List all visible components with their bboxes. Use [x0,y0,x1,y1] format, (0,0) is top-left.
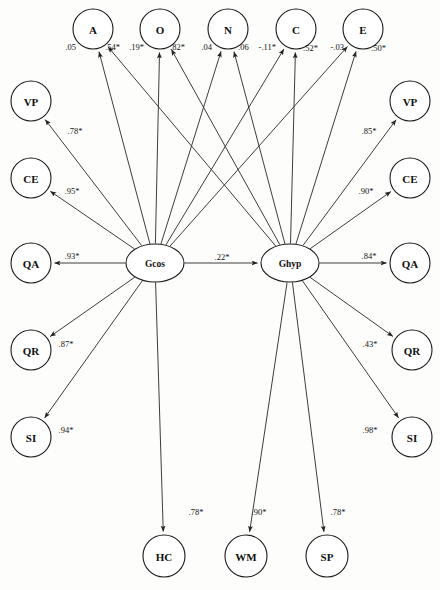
path-arrow-gcos-LQR [50,277,135,336]
coefficient-label-gcos-C: -.11* [259,42,276,52]
node-gcos[interactable]: Gcos [126,244,184,282]
coefficient-label-gcos-N: .04 [201,42,212,52]
node-l-vp[interactable]: VP [11,81,51,121]
coefficient-label-ghyp-C: .52* [303,43,318,53]
coefficient-label-ghyp-RQA: .84* [362,251,377,261]
node-shape-r-vp [390,81,430,121]
path-arrow-ghyp-C [291,52,296,243]
node-shape-hc [143,535,185,577]
path-arrow-gcos-A [99,52,150,244]
path-arrow-ghyp-A [108,47,276,246]
coefficient-label-ghyp-O: .82* [170,42,185,52]
coefficient-label-gcos-LVP: .78* [68,126,83,136]
coefficient-label-gcos-HC: .78* [189,507,204,517]
path-arrow-gcos-N [161,51,221,243]
node-l-qa[interactable]: QA [11,243,51,283]
coefficient-label-ghyp-RSI: .98* [363,425,378,435]
node-ghyp[interactable]: Ghyp [261,244,319,282]
node-shape-sp [306,535,348,577]
path-diagram-canvas: AONCEGcosGhypVPCEQAQRSIVPCEQAQRSIHCWMSP … [0,0,440,590]
path-diagram-svg: AONCEGcosGhypVPCEQAQRSIVPCEQAQRSIHCWMSP … [0,0,440,590]
path-arrow-gcos-O [155,52,159,243]
path-arrow-gcos-E [170,47,347,247]
node-l-ce[interactable]: CE [11,158,51,198]
coefficient-label-gcos-ghyp: .22* [215,252,230,262]
node-shape-wm [225,535,267,577]
path-arrow-gcos-C [166,49,284,245]
node-r-vp[interactable]: VP [390,81,430,121]
node-shape-gcos [126,244,184,282]
node-shape-r-si [392,417,432,457]
coefficient-label-gcos-E: -.03 [331,42,344,52]
node-shape-r-ce [390,158,430,198]
path-arrow-ghyp-RSI [302,281,398,418]
node-r-qa[interactable]: QA [390,243,430,283]
coefficient-label-ghyp-SP: .78* [331,507,346,517]
node-shape-r-qr [392,330,432,370]
coefficient-label-gcos-A: .05 [65,42,76,52]
coefficient-label-gcos-LSI: .94* [59,425,74,435]
coefficient-label-ghyp-A: .54* [105,42,120,52]
path-arrow-gcos-HC [156,283,164,532]
node-shape-l-si [11,417,51,457]
path-arrow-ghyp-WM [250,282,287,531]
path-arrow-ghyp-O [171,50,279,245]
coefficient-label-gcos-O: .19* [129,42,144,52]
path-arrow-ghyp-RVP [303,120,396,246]
node-wm[interactable]: WM [225,535,267,577]
node-l-qr[interactable]: QR [11,330,51,370]
coefficient-label-gcos-LCE: .95* [65,186,80,196]
coefficient-label-gcos-LQA: .93* [65,251,80,261]
path-arrow-gcos-LSI [45,281,143,418]
node-shape-l-qr [11,330,51,370]
node-r-qr[interactable]: QR [392,330,432,370]
path-arrow-ghyp-SP [292,282,323,531]
coefficient-label-ghyp-N: .06 [238,42,249,52]
coefficient-label-ghyp-RCE: .90* [359,186,374,196]
node-r-ce[interactable]: CE [390,158,430,198]
path-arrow-ghyp-RQR [310,277,393,336]
nodes-layer: AONCEGcosGhypVPCEQAQRSIVPCEQAQRSIHCWMSP [11,9,432,577]
path-arrow-gcos-LVP [45,120,141,246]
node-shape-l-ce [11,158,51,198]
node-shape-l-vp [11,81,51,121]
node-hc[interactable]: HC [143,535,185,577]
node-shape-r-qa [390,243,430,283]
coefficient-label-ghyp-RVP: .85* [362,126,377,136]
coefficient-label-ghyp-RQR: .43* [363,339,378,349]
coefficient-label-ghyp-E: .50* [371,43,386,53]
node-l-si[interactable]: SI [11,417,51,457]
coefficient-label-ghyp-WM: .90* [252,507,267,517]
node-r-si[interactable]: SI [392,417,432,457]
node-shape-l-qa [11,243,51,283]
path-arrow-ghyp-N [234,52,285,244]
edges-layer [45,47,399,532]
node-sp[interactable]: SP [306,535,348,577]
coefficient-label-gcos-LQR: .87* [59,339,74,349]
node-shape-ghyp [261,244,319,282]
